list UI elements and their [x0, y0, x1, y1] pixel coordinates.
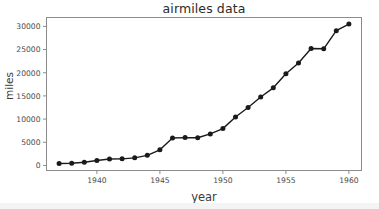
bottom-band — [0, 203, 379, 209]
x-tick-label: 1950 — [213, 176, 232, 185]
data-point — [94, 158, 99, 163]
data-point — [183, 135, 188, 140]
y-tick-label: 10000 — [16, 115, 40, 124]
data-point — [107, 157, 112, 162]
data-point — [246, 105, 251, 110]
data-point — [120, 156, 125, 161]
x-axis-ticks: 19401945195019551960 — [87, 171, 358, 186]
x-tick-label: 1960 — [339, 176, 358, 185]
data-point — [296, 61, 301, 66]
y-tick-label: 15000 — [16, 92, 40, 101]
data-point — [69, 161, 74, 166]
axis-frame — [47, 18, 362, 171]
data-point — [57, 161, 62, 166]
data-point — [346, 22, 351, 27]
y-tick-label: 30000 — [16, 22, 40, 31]
data-point — [208, 131, 213, 136]
data-point — [195, 135, 200, 140]
data-point — [309, 46, 314, 51]
data-point — [220, 126, 225, 131]
data-point — [233, 115, 238, 120]
data-point — [283, 71, 288, 76]
data-point — [334, 28, 339, 33]
chart-figure: airmiles data miles year 050001000015000… — [0, 0, 379, 209]
x-tick-label: 1955 — [276, 176, 295, 185]
y-tick-label: 25000 — [16, 45, 40, 54]
plot-area: 050001000015000200002500030000 194019451… — [0, 0, 379, 209]
y-tick-label: 20000 — [16, 69, 40, 78]
y-tick-label: 0 — [36, 161, 41, 170]
x-tick-label: 1940 — [87, 176, 106, 185]
data-point — [145, 153, 150, 158]
data-point — [82, 160, 87, 165]
data-point — [271, 85, 276, 90]
y-axis-ticks: 050001000015000200002500030000 — [16, 22, 46, 170]
data-point — [258, 95, 263, 100]
data-point — [321, 46, 326, 51]
data-point — [132, 155, 137, 160]
data-point — [157, 147, 162, 152]
data-point — [170, 136, 175, 141]
y-tick-label: 5000 — [21, 138, 40, 147]
x-tick-label: 1945 — [150, 176, 169, 185]
